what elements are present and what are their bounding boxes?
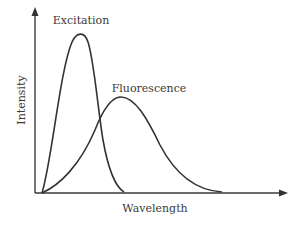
excitation-curve bbox=[42, 34, 124, 193]
x-axis-arrow-icon bbox=[279, 190, 288, 197]
spectra-chart: Excitation Fluorescence Wavelength Inten… bbox=[0, 0, 299, 227]
excitation-label: Excitation bbox=[53, 14, 110, 27]
fluorescence-label: Fluorescence bbox=[112, 82, 187, 95]
y-axis-label: Intensity bbox=[15, 75, 28, 125]
y-axis-arrow-icon bbox=[32, 7, 39, 16]
fluorescence-curve bbox=[42, 97, 222, 193]
x-axis-label: Wavelength bbox=[122, 202, 187, 215]
